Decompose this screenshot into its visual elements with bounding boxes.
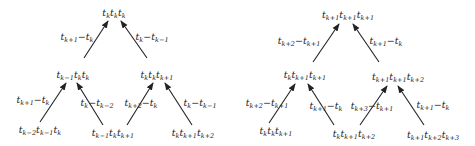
left-tree-edge-label-0: tk+1−tk (60, 32, 93, 42)
left-tree-edge-label-2: tk+1−tk (16, 95, 49, 105)
left-tree-edge-label-1: tk−tk−1 (135, 32, 168, 42)
right-tree-edge-label-2: tk+2−tk+1 (246, 98, 289, 108)
right-tree-edge-label-4: tk+3−tk+1 (351, 101, 394, 111)
right-tree-node-leaf-3: tk+1tk+2tk+3 (407, 130, 459, 140)
left-tree-edge-label-5: tk−tk−1 (183, 98, 216, 108)
right-tree-edge-label-1: tk+1−tk (369, 36, 402, 46)
left-tree-edge-label-4: tk+2−tk (124, 98, 157, 108)
right-tree-edge-label-3: tk+1−tk (309, 101, 342, 111)
right-tree-node-leaf-1: tktktk+1 (260, 126, 293, 136)
left-tree-node-root: tktktk (102, 8, 125, 18)
left-tree-node-leaf-1: tk−2tk−1tk (19, 125, 62, 135)
left-tree-edge-label-3: tk−tk−2 (80, 98, 113, 108)
right-tree-edge-label-5: tk+1−tk (416, 100, 449, 110)
left-tree-node-leaf-3: tktk+1tk+2 (172, 128, 215, 138)
right-tree-node-mid-left: tktk+1tk+1 (284, 70, 327, 80)
right-tree-node-mid-right: tk+1tk+1tk+2 (372, 72, 424, 82)
left-tree-node-mid-right: tktktk+1 (141, 70, 174, 80)
left-tree-node-mid-left: tk−1tktk (57, 70, 90, 80)
right-tree-node-root: tk+1tk+1tk+1 (322, 10, 374, 20)
left-tree-node-leaf-2: tk−1tktk+1 (92, 128, 135, 138)
right-tree-node-leaf-2: tktk+1tk+2 (333, 129, 376, 139)
right-tree-edge-label-0: tk+2−tk+1 (278, 36, 321, 46)
